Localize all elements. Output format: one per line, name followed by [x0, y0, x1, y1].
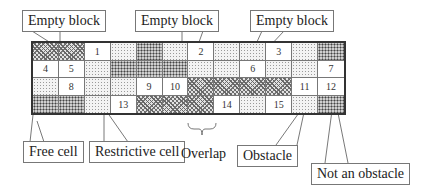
grid-cell: [318, 43, 344, 61]
grid-cell: [188, 96, 214, 114]
grid-cell: 13: [111, 96, 137, 114]
grid-cell: [85, 78, 111, 96]
grid-cell: [111, 43, 137, 61]
grid-cell: [111, 61, 137, 79]
grid-cell: [292, 61, 318, 79]
cell-grid: 123456789101112131415: [31, 41, 346, 115]
grid-cell: [59, 43, 85, 61]
label-overlap: Overlap: [181, 146, 226, 162]
grid-cell: [240, 96, 266, 114]
grid-cell: [266, 61, 292, 79]
grid-cell: [137, 43, 163, 61]
label-restrictive-cell: Restrictive cell: [89, 141, 185, 163]
grid-cell: [214, 61, 240, 79]
grid-cell: 9: [137, 78, 163, 96]
grid-cell: 10: [163, 78, 189, 96]
grid-cell: [163, 96, 189, 114]
grid-cell: [85, 96, 111, 114]
label-not-an-obstacle: Not an obstacle: [311, 163, 410, 185]
label-empty-block-1: Empty block: [22, 10, 106, 32]
grid-cell: 14: [214, 96, 240, 114]
grid-cell: 12: [318, 78, 344, 96]
grid-cell: 5: [59, 61, 85, 79]
grid-cell: [214, 78, 240, 96]
grid-cell: [137, 96, 163, 114]
grid-cell: 11: [292, 78, 318, 96]
grid-cell: 6: [240, 61, 266, 79]
grid-cell: [111, 78, 137, 96]
grid-cell: [214, 43, 240, 61]
grid-cell: [188, 78, 214, 96]
grid-cell: 1: [85, 43, 111, 61]
grid-cell: 7: [318, 61, 344, 79]
grid-cell: [188, 61, 214, 79]
grid-cell: [240, 43, 266, 61]
grid-cell: 2: [188, 43, 214, 61]
grid-cell: 3: [266, 43, 292, 61]
grid-cell: 8: [59, 78, 85, 96]
grid-cell: [33, 43, 59, 61]
grid-cell: [240, 78, 266, 96]
label-obstacle: Obstacle: [237, 145, 298, 167]
grid-cell: [318, 96, 344, 114]
label-free-cell: Free cell: [23, 141, 84, 163]
label-empty-block-2: Empty block: [135, 10, 219, 32]
grid-cell: [137, 61, 163, 79]
grid-cell: 15: [266, 96, 292, 114]
grid-cell: [163, 43, 189, 61]
grid-cell: [59, 96, 85, 114]
grid-cell: 4: [33, 61, 59, 79]
grid-cell: [292, 43, 318, 61]
grid-cell: [266, 78, 292, 96]
grid-cell: [33, 96, 59, 114]
grid-cell: [85, 61, 111, 79]
label-empty-block-3: Empty block: [250, 10, 334, 32]
grid-cell: [163, 61, 189, 79]
grid-cell: [292, 96, 318, 114]
grid-cell: [33, 78, 59, 96]
